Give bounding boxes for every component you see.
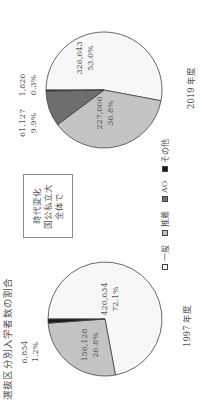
- label-2019-ao: 61,127 9.9%: [17, 109, 39, 137]
- label-1997-sonota: 6,854 1.2%: [19, 341, 41, 364]
- percent: 72.1%: [110, 282, 121, 315]
- label-1997-suisen: 156,128 26.8%: [79, 328, 101, 361]
- value: 227,006: [94, 96, 105, 129]
- year-label-2019: 2019 年度: [184, 67, 196, 109]
- value: 326,643: [74, 41, 85, 74]
- note-box: 時代変化 国公私立大 全体で: [23, 174, 73, 238]
- legend-item-suisen: 推薦: [159, 211, 170, 236]
- note-line: 時代変化: [32, 188, 43, 224]
- percent: 1.2%: [30, 341, 41, 364]
- legend-item-sonota: その他: [159, 139, 170, 172]
- percent: 0.3%: [28, 74, 39, 97]
- legend-label: 推薦: [159, 211, 170, 227]
- label-2019-sonota: 1,826 0.3%: [17, 74, 39, 97]
- percent: 9.9%: [28, 109, 39, 137]
- value: 420,634: [99, 282, 110, 315]
- value: 156,128: [79, 328, 90, 361]
- label-2019-ippan: 326,643 53.0%: [74, 41, 96, 74]
- pie-1997: [48, 262, 162, 376]
- legend-label: 一般: [159, 245, 170, 261]
- swatch-icon: [162, 166, 168, 172]
- pie-2019: [46, 32, 162, 148]
- legend-item-ao: AO: [160, 181, 169, 202]
- year-label-1997: 1997 年度: [180, 305, 192, 347]
- legend-item-ippan: 一般: [159, 245, 170, 270]
- legend-label: その他: [159, 139, 170, 163]
- percent: 36.8%: [105, 96, 116, 129]
- value: 1,826: [17, 74, 28, 97]
- legend: 一般 推薦 AO その他: [159, 139, 170, 270]
- value: 6,854: [19, 341, 30, 364]
- percent: 53.0%: [85, 41, 96, 74]
- legend-label: AO: [160, 181, 169, 193]
- chart-page: 選抜区分別入学者数の割合 420,634 72.1% 156,128 26.8%…: [0, 0, 202, 403]
- value: 61,127: [17, 109, 28, 137]
- note-line: 全体で: [54, 193, 65, 220]
- swatch-icon: [162, 264, 168, 270]
- note-line: 国公私立大: [43, 184, 54, 229]
- percent: 26.8%: [90, 328, 101, 361]
- label-1997-ippan: 420,634 72.1%: [99, 282, 121, 315]
- swatch-icon: [162, 196, 168, 202]
- swatch-icon: [162, 230, 168, 236]
- label-2019-suisen: 227,006 36.8%: [94, 96, 116, 129]
